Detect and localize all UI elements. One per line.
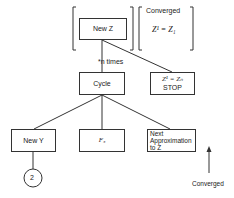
cycle-label: Cycle <box>93 80 111 88</box>
next-approx-label: Next Approximation to Z <box>150 131 193 151</box>
edge-label: *n times <box>98 58 123 65</box>
converged-header: Converged <box>146 7 180 14</box>
f3-box: F₃ <box>79 129 125 152</box>
new-z-label: New Z <box>93 25 113 33</box>
f3-label: F₃ <box>99 137 106 145</box>
converged-equation: Z¹ = Z₁ <box>152 25 175 34</box>
stop-box: Z¹ = Zₙ STOP <box>150 72 195 95</box>
new-z-box: New Z <box>79 18 127 40</box>
new-y-label: New Y <box>23 137 44 145</box>
stop-equation: Z¹ = Zₙ <box>162 76 183 84</box>
new-y-box: New Y <box>11 129 56 152</box>
stop-label: STOP <box>163 84 182 92</box>
cycle-box: Cycle <box>79 72 125 95</box>
converged-arrow-label: Converged <box>192 180 224 187</box>
arrow-up-icon <box>207 146 212 152</box>
next-approx-box: Next Approximation to Z <box>147 129 196 152</box>
connector-label: 2 <box>30 174 34 181</box>
